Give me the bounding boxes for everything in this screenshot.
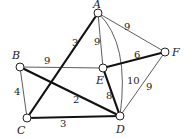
edge-c-d [27,116,120,118]
edge-weight-f-d: 9 [146,81,152,92]
node-e [99,64,107,72]
edge-weight-b-c: 4 [14,86,20,97]
edge-a-c [27,13,98,118]
nodes-layer [16,9,169,122]
edge-weight-a-e: 9 [94,36,100,47]
edge-weight-e-f: 6 [134,49,140,60]
edge-b-c [20,67,27,118]
edge-a-f [98,13,165,52]
edge-weight-e-d: 8 [106,90,112,101]
node-b [16,63,24,71]
edge-b-e [20,67,103,68]
edges-layer [20,13,165,118]
node-label-d: D [115,123,125,136]
node-label-b: B [11,49,20,62]
edge-weight-a-d: 10 [127,75,140,86]
node-d [116,112,124,120]
node-f [161,48,169,56]
edge-weight-b-e: 9 [44,55,50,66]
node-c [23,114,31,122]
node-label-f: F [171,46,180,59]
edge-weight-a-f: 9 [124,21,130,32]
edge-weight-a-c: 3 [72,37,78,48]
graph-svg: 399109423869 ABCDEF [0,0,189,139]
weighted-graph-diagram: 399109423869 ABCDEF [0,0,189,139]
node-label-e: E [95,74,104,87]
edge-weight-c-d: 3 [60,118,66,129]
node-label-c: C [17,124,26,137]
node-label-a: A [92,0,101,11]
edge-weight-b-d: 2 [73,94,79,105]
